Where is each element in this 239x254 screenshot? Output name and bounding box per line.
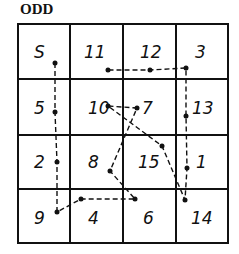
cell-11: 11 [84,42,106,62]
cell-S: S [34,42,45,62]
cell-2: 2 [34,152,45,172]
cell-8: 8 [88,152,99,172]
cell-12: 12 [140,42,162,62]
cell-6: 6 [143,208,154,228]
cell-3: 3 [195,42,206,62]
cell-7: 7 [142,98,153,118]
cell-5: 5 [34,98,45,118]
cell-10: 10 [88,98,110,118]
number-grid-diagram: S 11 12 3 5 10 7 13 2 8 15 1 9 4 6 14 [0,0,239,254]
path-dots [53,61,190,215]
cell-1: 1 [196,152,207,172]
cell-9: 9 [34,208,45,228]
cell-13: 13 [192,98,214,118]
cell-15: 15 [138,152,160,172]
cell-14: 14 [191,208,213,228]
cell-4: 4 [88,208,99,228]
